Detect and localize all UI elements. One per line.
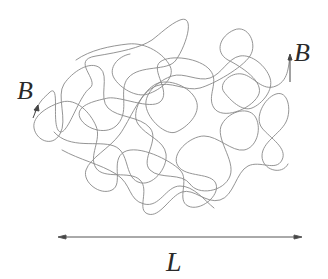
arrowhead-left-icon: [58, 235, 66, 239]
diagram-canvas: [0, 0, 328, 279]
left-end-label: B: [17, 78, 33, 104]
arrowhead-right-icon: [294, 235, 302, 239]
polymer-chain: [34, 19, 290, 214]
right-end-label: B: [294, 40, 310, 66]
length-label: L: [166, 248, 182, 276]
length-arrow: [58, 235, 302, 239]
